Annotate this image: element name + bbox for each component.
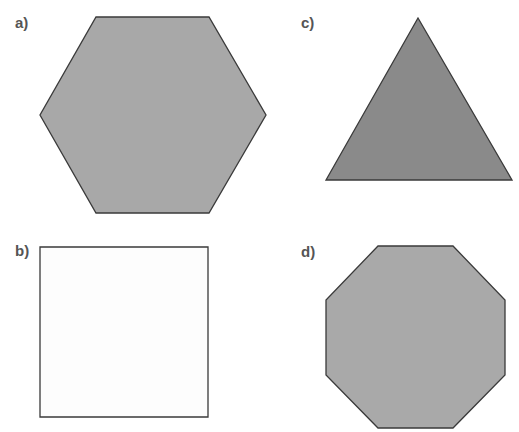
octagon-shape <box>326 246 505 428</box>
triangle-shape <box>326 18 512 180</box>
square-shape <box>40 247 208 417</box>
hexagon-shape <box>40 17 266 213</box>
shapes-canvas <box>0 0 519 432</box>
